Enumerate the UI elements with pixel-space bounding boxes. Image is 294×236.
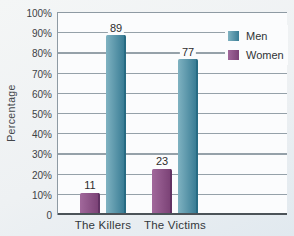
chart: Percentage 11892377 100%90%80%70%60%50%4… — [0, 0, 294, 236]
bar-women-1 — [80, 193, 100, 215]
gridline — [58, 174, 287, 175]
bar-value-label: 77 — [180, 46, 196, 59]
bar-men-2 — [178, 59, 198, 215]
bar-men-1 — [106, 35, 126, 215]
y-tick-label: 100% — [6, 7, 52, 20]
legend: Men Women — [225, 25, 288, 65]
y-tick-label: 80% — [6, 47, 52, 60]
y-tick-label: 40% — [6, 128, 52, 141]
y-tick-label: 50% — [6, 108, 52, 121]
y-tick-label: 20% — [6, 169, 52, 182]
men-color-swatch — [228, 31, 239, 41]
gridline — [58, 93, 287, 94]
gridline — [58, 133, 287, 134]
legend-item-men: Men — [228, 26, 284, 45]
bar-women-2 — [152, 169, 172, 215]
y-tick-label: 90% — [6, 27, 52, 40]
gridline — [58, 73, 287, 74]
bar-value-label: 89 — [108, 22, 124, 35]
x-axis-line — [58, 213, 287, 215]
y-tick-label: 10% — [6, 189, 52, 202]
y-tick-label: 70% — [6, 68, 52, 81]
gridline — [58, 113, 287, 114]
category-label: The Killers — [75, 219, 132, 231]
bar-value-label: 11 — [82, 179, 97, 192]
gridline — [58, 153, 287, 154]
legend-label-men: Men — [246, 30, 267, 42]
y-tick-label: 30% — [6, 148, 52, 161]
women-color-swatch — [228, 50, 239, 60]
category-label: The Victims — [144, 219, 206, 231]
legend-item-women: Women — [228, 45, 284, 64]
y-tick-label: 0 — [6, 209, 52, 222]
y-tick-label: 60% — [6, 88, 52, 101]
bar-value-label: 23 — [154, 155, 170, 168]
legend-label-women: Women — [246, 49, 284, 61]
